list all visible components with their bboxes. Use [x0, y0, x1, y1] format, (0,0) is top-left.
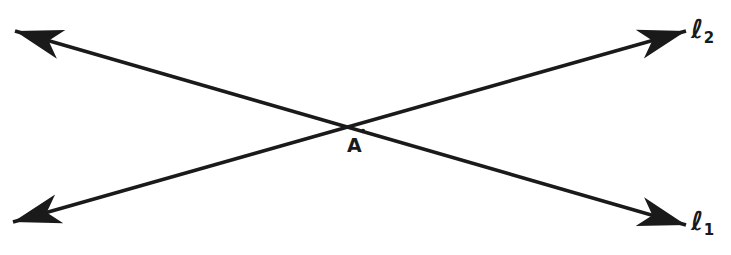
script-ell-glyph: ℓ — [691, 206, 703, 236]
script-ell-glyph: ℓ — [691, 14, 703, 44]
subscript-1: 1 — [704, 221, 714, 239]
line-label-l1: ℓ1 — [691, 208, 714, 238]
line-label-l2: ℓ2 — [691, 16, 714, 46]
canvas-background — [0, 0, 731, 255]
diagram-canvas — [0, 0, 731, 255]
point-label-a: A — [347, 136, 362, 155]
intersection-point-a — [361, 129, 365, 133]
subscript-2: 2 — [704, 29, 714, 47]
geometry-figure: A ℓ2 ℓ1 — [0, 0, 731, 255]
